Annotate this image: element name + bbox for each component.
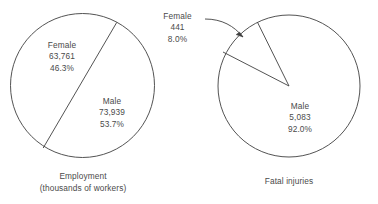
fatal-female-slice-edge-end bbox=[223, 52, 289, 86]
employment-male-label: Male 73,939 53.7% bbox=[83, 96, 141, 130]
fatal-injuries-pie bbox=[218, 15, 360, 157]
fatal-male-percent: 92.0% bbox=[272, 124, 328, 135]
fatal-male-label: Male 5,083 92.0% bbox=[272, 101, 328, 135]
dual-pie-chart-figure: Female 63,761 46.3% Male 73,939 53.7% Fe… bbox=[0, 0, 378, 204]
employment-pie bbox=[11, 14, 155, 158]
employment-caption-line2: (thousands of workers) bbox=[12, 183, 154, 195]
employment-female-value: 63,761 bbox=[33, 51, 91, 62]
employment-male-value: 73,939 bbox=[83, 107, 141, 118]
fatal-female-slice-edge-start bbox=[258, 22, 290, 86]
fatal-male-name: Male bbox=[272, 101, 328, 112]
fatal-female-value: 441 bbox=[150, 22, 205, 33]
employment-pie-outline bbox=[11, 14, 155, 158]
fatal-injuries-chart-caption: Fatal injuries bbox=[229, 176, 349, 188]
employment-male-percent: 53.7% bbox=[83, 119, 141, 130]
employment-female-percent: 46.3% bbox=[33, 63, 91, 74]
fatal-female-percent: 8.0% bbox=[150, 34, 205, 45]
fatal-female-name: Female bbox=[150, 11, 205, 22]
employment-male-name: Male bbox=[83, 96, 141, 107]
employment-female-label: Female 63,761 46.3% bbox=[33, 40, 91, 74]
fatal-female-callout-leader bbox=[205, 19, 243, 37]
fatal-caption-line1: Fatal injuries bbox=[229, 176, 349, 188]
fatal-male-value: 5,083 bbox=[272, 112, 328, 123]
employment-chart-caption: Employment (thousands of workers) bbox=[12, 171, 154, 194]
fatal-female-callout-label: Female 441 8.0% bbox=[150, 11, 205, 45]
employment-caption-line1: Employment bbox=[12, 171, 154, 183]
employment-female-name: Female bbox=[33, 40, 91, 51]
